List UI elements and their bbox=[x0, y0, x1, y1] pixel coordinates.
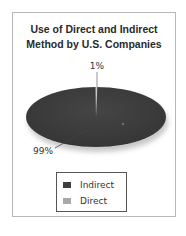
legend-item-indirect[interactable]: Indirect bbox=[63, 178, 114, 192]
legend-label-direct: Direct bbox=[80, 196, 107, 206]
legend-item-direct[interactable]: Direct bbox=[63, 194, 107, 208]
label-direct-pct: 1% bbox=[90, 61, 105, 71]
legend-swatch-direct bbox=[63, 198, 71, 204]
legend-label-indirect: Indirect bbox=[80, 180, 114, 190]
label-indirect-pct: 99% bbox=[33, 146, 53, 156]
pie-highlight bbox=[122, 123, 124, 125]
chart-legend: Indirect Direct bbox=[56, 172, 127, 212]
legend-swatch-indirect bbox=[63, 182, 71, 188]
